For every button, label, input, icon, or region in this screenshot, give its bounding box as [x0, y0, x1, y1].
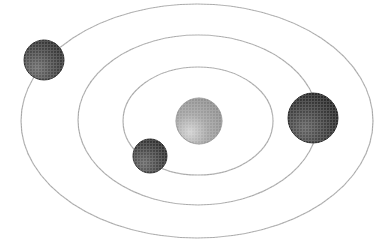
orbital-diagram: Orbital system diagram A central body wi… — [0, 0, 377, 251]
halftone-texture-overlay — [0, 0, 377, 251]
orbit-canvas — [0, 0, 377, 251]
